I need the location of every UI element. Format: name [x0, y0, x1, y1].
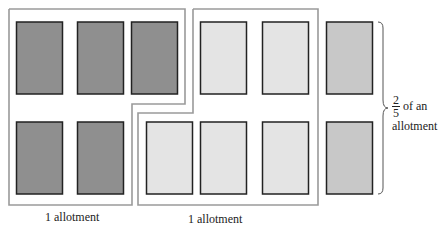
medium-rectangles — [327, 22, 373, 194]
fraction-text: of an — [403, 99, 427, 113]
rectangle — [327, 122, 373, 194]
rectangle — [263, 122, 309, 194]
rectangle — [132, 22, 178, 94]
allotment-label-right: 1 allotment — [188, 212, 242, 227]
rectangle — [78, 122, 124, 194]
rectangle — [78, 22, 124, 94]
rectangle — [327, 22, 373, 94]
allotment-diagram — [0, 0, 445, 232]
fraction-label: 2 5 of an allotment — [392, 94, 437, 134]
rectangle — [201, 122, 247, 194]
rectangle — [201, 22, 247, 94]
rectangle — [263, 22, 309, 94]
allotment-label-left: 1 allotment — [45, 210, 99, 225]
rectangle — [147, 122, 193, 194]
fraction-text-line2: allotment — [392, 119, 437, 134]
fraction-denominator: 5 — [392, 107, 400, 119]
rectangle — [17, 22, 63, 94]
fraction: 2 5 — [392, 94, 400, 119]
rectangle — [17, 122, 63, 194]
curly-brace — [378, 22, 388, 194]
